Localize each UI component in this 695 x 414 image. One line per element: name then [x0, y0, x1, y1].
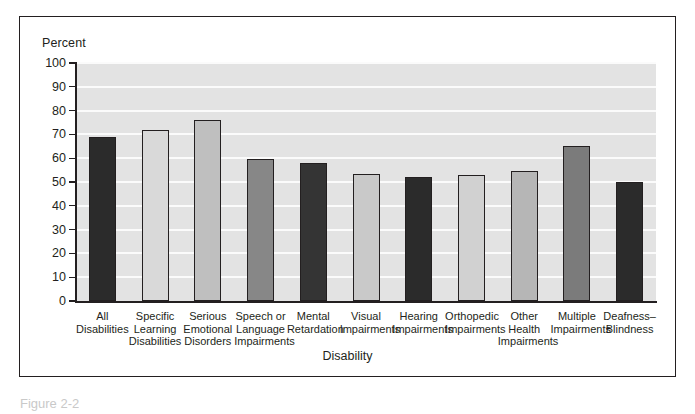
x-label-line: Deafness–: [603, 310, 656, 323]
gridline: [76, 62, 656, 64]
x-axis-line: [75, 301, 657, 303]
figure-caption: Figure 2-2: [20, 396, 79, 414]
x-axis-label: AllDisabilities: [76, 310, 129, 335]
x-label-line: Multiple: [551, 310, 604, 323]
y-tick-label-wrap: 30: [30, 224, 66, 236]
x-axis-label: SpecificLearningDisabilities: [129, 310, 182, 348]
y-tick-label: 90: [36, 81, 66, 94]
x-label-line: Emotional: [181, 323, 234, 336]
x-axis-label: MultipleImpairments: [551, 310, 604, 335]
y-tick-mark: [69, 253, 75, 254]
gridline: [76, 86, 656, 88]
x-label-line: Orthopedic: [445, 310, 498, 323]
x-label-line: Specific: [129, 310, 182, 323]
x-label-line: Disabilities: [76, 323, 129, 336]
bar: [511, 171, 538, 301]
x-label-line: Impairments: [445, 323, 498, 336]
y-tick-label-wrap: 100: [30, 57, 66, 69]
x-label-line: Disabilities: [129, 335, 182, 348]
y-tick-label-wrap: 90: [30, 81, 66, 93]
x-label-line: Hearing: [392, 310, 445, 323]
y-tick-mark: [69, 158, 75, 159]
y-tick-label: 0: [36, 295, 66, 308]
y-tick-label-wrap: 20: [30, 247, 66, 259]
y-axis-line: [75, 62, 77, 302]
gridline: [76, 110, 656, 112]
bar: [563, 146, 590, 301]
bar: [142, 130, 169, 301]
y-tick-label: 30: [36, 224, 66, 237]
bar: [89, 137, 116, 301]
x-axis-label: VisualImpairments: [340, 310, 393, 335]
bar: [458, 175, 485, 301]
figure-root: Percent 0102030405060708090100 AllDisabi…: [0, 0, 695, 414]
x-label-line: Language: [234, 323, 287, 336]
x-axis-label: Speech orLanguageImpairments: [234, 310, 287, 348]
y-tick-label-wrap: 70: [30, 128, 66, 140]
y-tick-label-wrap: 10: [30, 271, 66, 283]
y-tick-label-wrap: 80: [30, 105, 66, 117]
x-label-line: Impairments: [340, 323, 393, 336]
y-tick-label: 20: [36, 247, 66, 260]
x-axis-label: SeriousEmotionalDisorders: [181, 310, 234, 348]
y-tick-mark: [69, 277, 75, 278]
x-label-line: Other: [498, 310, 551, 323]
y-tick-mark: [69, 205, 75, 206]
x-axis-label: HearingImpairments: [392, 310, 445, 335]
y-tick-label: 40: [36, 200, 66, 213]
y-tick-label-wrap: 50: [30, 176, 66, 188]
y-tick-mark: [69, 229, 75, 230]
y-tick-mark: [69, 86, 75, 87]
y-tick-mark: [69, 181, 75, 182]
x-label-line: Learning: [129, 323, 182, 336]
x-axis-label: MentalRetardation: [287, 310, 340, 335]
y-tick-label-wrap: 0: [30, 295, 66, 307]
y-tick-mark: [69, 300, 75, 301]
y-tick-mark: [69, 110, 75, 111]
bar: [300, 163, 327, 301]
bar: [405, 177, 432, 301]
y-tick-label: 50: [36, 176, 66, 189]
y-tick-label: 60: [36, 152, 66, 165]
y-tick-label: 70: [36, 128, 66, 141]
bar-chart: Percent 0102030405060708090100 AllDisabi…: [0, 0, 695, 414]
y-tick-label: 80: [36, 105, 66, 118]
bar: [194, 120, 221, 301]
bar: [353, 174, 380, 301]
x-axis-label: OrthopedicImpairments: [445, 310, 498, 335]
x-label-line: Impairments: [234, 335, 287, 348]
y-tick-mark: [69, 134, 75, 135]
x-label-line: Impairments: [551, 323, 604, 336]
x-label-line: Disorders: [181, 335, 234, 348]
y-axis-title: Percent: [42, 36, 86, 50]
plot-region: [76, 63, 656, 301]
y-tick-label: 100: [36, 57, 66, 70]
x-label-line: Speech or: [234, 310, 287, 323]
y-tick-label: 10: [36, 271, 66, 284]
x-label-line: Serious: [181, 310, 234, 323]
x-label-line: Impairments: [392, 323, 445, 336]
y-tick-label-wrap: 60: [30, 152, 66, 164]
x-label-line: Blindness: [603, 323, 656, 336]
y-tick-mark: [69, 62, 75, 63]
y-tick-label-wrap: 40: [30, 200, 66, 212]
bar: [247, 159, 274, 301]
x-axis-label: Deafness–Blindness: [603, 310, 656, 335]
x-label-line: Mental: [287, 310, 340, 323]
x-label-line: All: [76, 310, 129, 323]
x-label-line: Retardation: [287, 323, 340, 336]
x-axis-title: Disability: [0, 349, 695, 363]
x-label-line: Visual: [340, 310, 393, 323]
x-label-line: Health: [498, 323, 551, 336]
bar: [616, 182, 643, 301]
x-axis-label: OtherHealthImpairments: [498, 310, 551, 348]
x-label-line: Impairments: [498, 335, 551, 348]
